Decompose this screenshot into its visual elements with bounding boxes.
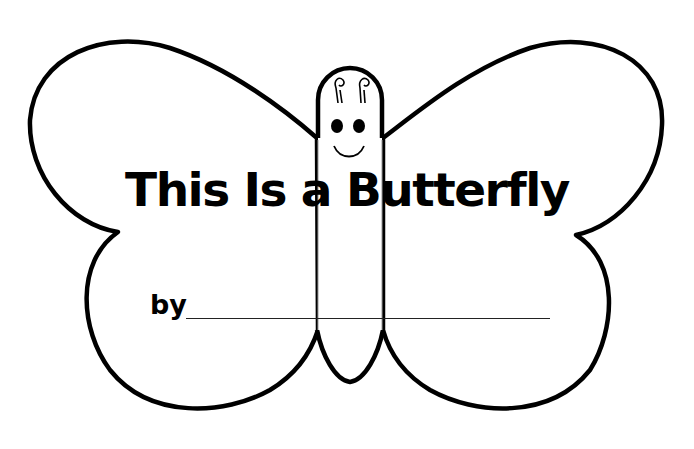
by-label: by <box>150 291 187 318</box>
worksheet-title: This Is a Butterfly <box>0 166 694 213</box>
butterfly-outline-icon <box>0 0 694 449</box>
butterfly-worksheet: This Is a Butterfly by <box>0 0 694 449</box>
name-write-line[interactable] <box>186 318 550 319</box>
